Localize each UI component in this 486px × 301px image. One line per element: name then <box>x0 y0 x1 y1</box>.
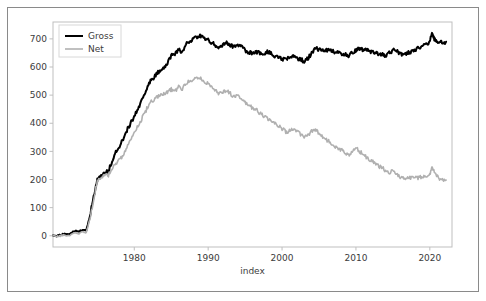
legend-label-gross: Gross <box>88 31 114 41</box>
plot-area: 0100200300400500600700198019902000201020… <box>0 0 486 301</box>
line-chart-svg: 0100200300400500600700198019902000201020… <box>0 0 486 301</box>
y-tick-label: 500 <box>30 90 47 100</box>
y-tick-label: 600 <box>30 62 47 72</box>
y-tick-label: 300 <box>30 147 47 157</box>
x-tick-label: 2000 <box>271 253 294 263</box>
x-tick-label: 1980 <box>123 253 146 263</box>
y-tick-label: 400 <box>30 118 47 128</box>
y-tick-label: 200 <box>30 175 47 185</box>
series-line-gross <box>53 33 446 236</box>
legend-label-net: Net <box>88 44 104 54</box>
chart-figure: 0100200300400500600700198019902000201020… <box>0 0 486 301</box>
y-tick-label: 700 <box>30 34 47 44</box>
y-tick-label: 0 <box>41 231 47 241</box>
x-axis-label: index <box>240 266 265 276</box>
x-tick-label: 1990 <box>197 253 220 263</box>
x-tick-label: 2010 <box>344 253 367 263</box>
y-tick-label: 100 <box>30 203 47 213</box>
series-line-net <box>53 77 446 237</box>
x-tick-label: 2020 <box>418 253 441 263</box>
